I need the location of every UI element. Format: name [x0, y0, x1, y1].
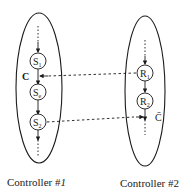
state-r2: R2 [137, 93, 153, 109]
link-r1-to-c [40, 73, 136, 76]
state-s2: S2 [30, 114, 46, 130]
condition-c-label: C [22, 71, 29, 82]
controller-sync-diagram: S1 Se S2 R1 R2 C C̄ [0, 0, 188, 192]
controller-2-label: Controller #2 [120, 178, 179, 189]
controller-2-label-prefix: Controller # [120, 177, 173, 189]
link-s2-to-cbar [47, 117, 143, 122]
controller-2-label-number: 2 [173, 177, 179, 189]
controller-1-label-number: 1 [60, 176, 66, 188]
controller-1-label-prefix: Controller # [7, 176, 60, 188]
state-s1: S1 [30, 53, 46, 69]
state-r1: R1 [137, 65, 153, 81]
state-se: Se [30, 84, 46, 100]
controller-1-label: Controller #1 [7, 177, 66, 188]
condition-cbar-label: C̄ [155, 112, 162, 123]
